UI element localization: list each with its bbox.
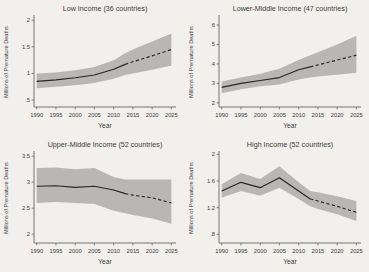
- y-tick-label: .8: [210, 231, 215, 237]
- x-tick-label: 2015: [311, 112, 324, 118]
- x-tick-label: 2005: [88, 112, 101, 118]
- y-tick-label: 1.6: [206, 178, 214, 184]
- x-tick-label: 2020: [330, 112, 343, 118]
- x-tick-label: 1995: [49, 112, 62, 118]
- x-tick-label: 2015: [126, 112, 139, 118]
- chart-title: High Income (52 countries): [246, 140, 332, 149]
- x-tick-label: 1995: [49, 248, 62, 254]
- x-tick-label: 2025: [349, 112, 362, 118]
- x-axis-label: Year: [283, 122, 297, 129]
- y-tick-label: 3: [27, 179, 30, 185]
- y-axis-label: Millions of Premature Deaths: [3, 162, 9, 234]
- x-tick-label: 2005: [272, 248, 285, 254]
- chart-low-income: .511.5219901995200020052010201520202025L…: [0, 0, 185, 136]
- chart-title: Lower-Middle Income (47 countries): [232, 4, 347, 13]
- x-tick-label: 2000: [69, 112, 82, 118]
- x-tick-label: 1995: [234, 248, 247, 254]
- chart-lower-middle-income: 2345619901995200020052010201520202025Low…: [185, 0, 369, 136]
- confidence-band: [221, 166, 356, 221]
- confidence-band: [221, 36, 356, 93]
- x-tick-label: 2020: [330, 248, 343, 254]
- x-tick-label: 2005: [88, 248, 101, 254]
- x-tick-label: 2010: [107, 112, 120, 118]
- x-tick-label: 1995: [234, 112, 247, 118]
- y-axis-label: Millions of Premature Deaths: [3, 26, 9, 98]
- x-tick-label: 1990: [215, 248, 228, 254]
- chart-title: Low Income (36 countries): [63, 4, 148, 13]
- y-tick-label: 2: [27, 231, 30, 237]
- y-tick-label: 6: [211, 22, 214, 28]
- y-tick-label: 1.2: [206, 205, 214, 211]
- x-tick-label: 2005: [272, 112, 285, 118]
- chart-title: Upper-Middle Income (52 countries): [48, 140, 163, 149]
- y-axis-label: Millions of Premature Deaths: [187, 26, 193, 98]
- chart-panel-high-income: .81.21.621990199520002005201020152020202…: [185, 136, 369, 272]
- x-tick-label: 1990: [215, 112, 228, 118]
- x-axis-label: Year: [98, 258, 112, 265]
- x-tick-label: 2010: [292, 112, 305, 118]
- y-tick-label: 1: [27, 70, 30, 76]
- chart-high-income: .81.21.621990199520002005201020152020202…: [185, 136, 369, 272]
- y-tick-label: 5: [211, 41, 214, 47]
- y-tick-label: 4: [211, 61, 215, 67]
- y-axis-label: Millions of Premature Deaths: [187, 162, 193, 234]
- x-tick-label: 2000: [253, 248, 266, 254]
- y-tick-label: 1.5: [22, 44, 30, 50]
- x-tick-label: 2000: [69, 248, 82, 254]
- y-tick-label: 2: [211, 100, 214, 106]
- x-tick-label: 2010: [292, 248, 305, 254]
- x-tick-label: 2025: [349, 248, 362, 254]
- x-tick-label: 2000: [253, 112, 266, 118]
- x-tick-label: 2020: [146, 112, 159, 118]
- x-axis-label: Year: [98, 122, 112, 129]
- chart-upper-middle-income: 22.533.519901995200020052010201520202025…: [0, 136, 185, 272]
- y-tick-label: 2: [27, 17, 30, 23]
- y-tick-label: 2.5: [22, 205, 30, 211]
- x-tick-label: 1990: [30, 248, 43, 254]
- x-tick-label: 2020: [146, 248, 159, 254]
- chart-panel-lower-middle-income: 2345619901995200020052010201520202025Low…: [185, 0, 369, 136]
- chart-panel-low-income: .511.5219901995200020052010201520202025L…: [0, 0, 185, 136]
- chart-panel-upper-middle-income: 22.533.519901995200020052010201520202025…: [0, 136, 185, 272]
- x-tick-label: 2015: [311, 248, 324, 254]
- x-tick-label: 1990: [30, 112, 43, 118]
- x-tick-label: 2025: [165, 112, 178, 118]
- confidence-band: [37, 168, 172, 224]
- y-tick-label: 3: [211, 80, 214, 86]
- y-tick-label: .5: [25, 97, 30, 103]
- x-tick-label: 2015: [126, 248, 139, 254]
- premature-deaths-figure: .511.5219901995200020052010201520202025L…: [0, 0, 369, 272]
- x-axis-label: Year: [283, 258, 297, 265]
- y-tick-label: 3.5: [22, 153, 30, 159]
- x-tick-label: 2025: [165, 248, 178, 254]
- x-tick-label: 2010: [107, 248, 120, 254]
- y-tick-label: 2: [211, 151, 214, 157]
